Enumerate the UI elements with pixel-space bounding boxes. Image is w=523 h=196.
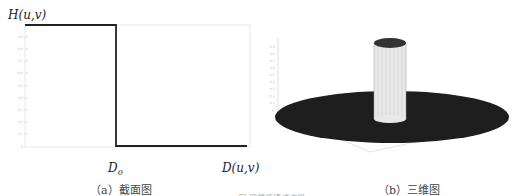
svg-text:0.5: 0.5 — [18, 84, 23, 88]
charts-canvas: 0.90.80.7 0.60.50.4 0.30.20.1 0 0.90.80.… — [0, 0, 523, 196]
svg-text:0.7: 0.7 — [18, 59, 23, 63]
svg-text:0.6: 0.6 — [18, 71, 23, 75]
surface-3d-chart: 0.90.80.7 0.60.50.4 0.30.20.1 0 — [270, 38, 509, 152]
svg-text:0.1: 0.1 — [18, 132, 23, 136]
figure-caption: 图 理想低通滤波器 — [238, 192, 305, 196]
svg-text:0: 0 — [272, 109, 274, 113]
svg-text:0.5: 0.5 — [270, 73, 275, 77]
svg-text:0.2: 0.2 — [18, 120, 23, 124]
svg-text:0.3: 0.3 — [18, 108, 23, 112]
caption-b: （b）三维图 — [378, 181, 440, 196]
svg-text:0: 0 — [21, 145, 23, 149]
caption-a: （a）截面图 — [90, 181, 152, 196]
svg-text:0.8: 0.8 — [18, 47, 23, 51]
x-axis-label: D(u,v) — [222, 161, 259, 175]
svg-text:0.4: 0.4 — [18, 96, 23, 100]
svg-text:0.8: 0.8 — [270, 52, 275, 56]
svg-text:0.6: 0.6 — [270, 66, 275, 70]
svg-text:0.4: 0.4 — [270, 80, 275, 84]
svg-text:0.1: 0.1 — [270, 101, 275, 105]
step-line — [25, 25, 247, 146]
cylinder-top — [374, 38, 406, 48]
svg-text:0.3: 0.3 — [270, 87, 275, 91]
svg-text:0.2: 0.2 — [270, 94, 275, 98]
svg-text:0.7: 0.7 — [270, 59, 275, 63]
d0-tick-label: D0 — [108, 161, 123, 177]
cross-section-chart: 0.90.80.7 0.60.50.4 0.30.20.1 0 — [18, 25, 250, 149]
svg-text:0.9: 0.9 — [18, 35, 23, 39]
svg-text:0.9: 0.9 — [270, 45, 275, 49]
